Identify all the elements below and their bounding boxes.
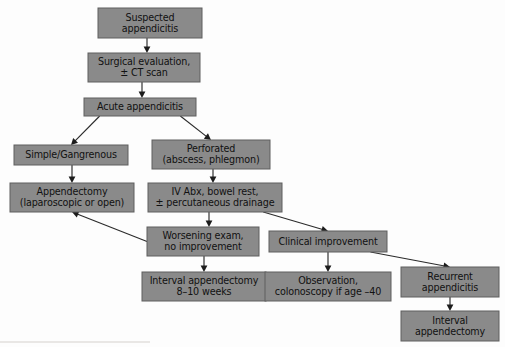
node-layer: SuspectedappendicitisSurgical evaluation… — [10, 8, 499, 341]
node-label-surgical_eval: Surgical evaluation, — [98, 56, 190, 67]
arrowhead-worsening-to-interval — [201, 266, 208, 273]
connector-improvement-to-recurrent — [370, 252, 444, 266]
node-label-acute: Acute appendicitis — [97, 101, 183, 112]
flowchart-canvas: SuspectedappendicitisSurgical evaluation… — [0, 0, 505, 347]
connector-worsening-to-appendectomy — [77, 214, 147, 241]
connector-acute-to-perforated — [180, 116, 206, 137]
node-label-clinical_improvement: Clinical improvement — [278, 236, 377, 247]
node-label-worsening: no improvement — [164, 241, 242, 252]
arrowhead-suspected-to-surgical — [144, 47, 151, 54]
node-label-simple: Simple/Gangrenous — [25, 149, 117, 160]
node-label-appendectomy: Appendectomy — [37, 186, 108, 197]
arrowhead-surgical-to-acute — [139, 92, 146, 99]
node-label-iv_abx: IV Abx, bowel rest, — [172, 186, 259, 197]
arrowhead-perforated-to-ivabx — [210, 177, 217, 184]
node-label-observation: colonoscopy if age –40 — [275, 286, 381, 297]
arrowhead-acute-to-perforated — [204, 133, 211, 140]
appendicitis-flowchart: SuspectedappendicitisSurgical evaluation… — [0, 0, 505, 347]
node-label-interval_appy_8_10: 8–10 weeks — [177, 286, 232, 297]
node-label-perforated: Perforated — [187, 143, 236, 154]
arrowhead-recurrent-to-interval — [447, 305, 454, 312]
node-simple: Simple/Gangrenous — [14, 145, 128, 165]
node-suspected: Suspectedappendicitis — [98, 8, 202, 38]
node-label-interval_appy_final: Interval — [432, 315, 468, 326]
scan-artifact — [0, 341, 150, 343]
arrowhead-improvement-to-observation — [325, 266, 332, 273]
arrowhead-ivabx-to-worsening — [206, 221, 213, 228]
node-perforated: Perforated(abscess, phlegmon) — [152, 140, 270, 169]
node-interval_appy_8_10: Interval appendectomy8–10 weeks — [142, 272, 266, 301]
node-label-iv_abx: ± percutaneous drainage — [156, 197, 275, 208]
node-clinical_improvement: Clinical improvement — [269, 231, 387, 252]
node-surgical_eval: Surgical evaluation,± CT scan — [88, 53, 200, 82]
node-acute: Acute appendicitis — [84, 98, 196, 116]
node-label-suspected: appendicitis — [122, 23, 179, 34]
node-label-appendectomy: (laparoscopic or open) — [20, 197, 124, 208]
node-label-recurrent: appendicitis — [422, 282, 479, 293]
node-label-recurrent: Recurrent — [427, 271, 473, 282]
node-iv_abx: IV Abx, bowel rest,± percutaneous draina… — [148, 183, 282, 212]
node-label-perforated: (abscess, phlegmon) — [163, 154, 260, 165]
connector-acute-to-simple — [75, 116, 100, 141]
node-interval_appy_final: Intervalappendectomy — [401, 311, 499, 341]
node-recurrent: Recurrentappendicitis — [401, 267, 499, 297]
node-label-interval_appy_final: appendectomy — [415, 326, 486, 337]
connector-ivabx-to-improvement — [263, 212, 322, 229]
node-label-worsening: Worsening exam, — [162, 230, 243, 241]
node-label-interval_appy_8_10: Interval appendectomy — [150, 275, 259, 286]
node-label-suspected: Suspected — [126, 12, 175, 23]
node-appendectomy: Appendectomy(laparoscopic or open) — [10, 183, 134, 212]
arrowhead-simple-to-appendectomy — [69, 177, 76, 184]
node-worsening: Worsening exam,no improvement — [147, 227, 259, 256]
node-observation: Observation,colonoscopy if age –40 — [265, 272, 391, 301]
node-label-observation: Observation, — [298, 275, 358, 286]
node-label-surgical_eval: ± CT scan — [120, 67, 168, 78]
